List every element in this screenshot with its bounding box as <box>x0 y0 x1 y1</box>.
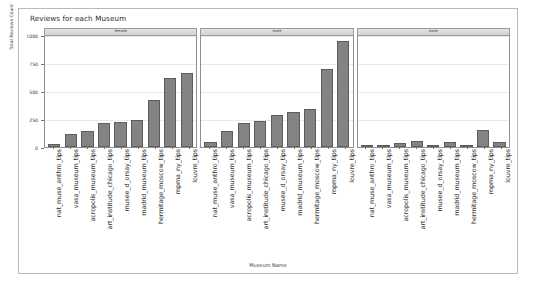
chart-title: Reviews for each Museum <box>30 14 126 23</box>
x-axis-tick-label: mpma_ny_tips <box>330 149 338 194</box>
x-axis-tick-mark <box>501 146 502 149</box>
facet-strip-label: female <box>114 30 126 34</box>
bar <box>164 78 176 147</box>
bar-group <box>201 36 352 147</box>
facet-strip-female: female <box>44 28 197 36</box>
y-axis-tick-label: 750 <box>29 62 38 67</box>
x-axis-tick-mark <box>311 146 312 149</box>
bar <box>148 100 160 147</box>
chart-screenshot: Reviews for each Museum Total Reviews Co… <box>0 0 536 282</box>
bar <box>204 142 216 147</box>
x-axis-tick-mark <box>155 146 156 149</box>
x-axis-tick-label: acropolis_museum_tips <box>89 149 97 221</box>
plot-panel <box>200 36 353 148</box>
x-axis-tick-label: nat_muse_anthro_tips <box>368 149 376 217</box>
x-axis-labels-male: nat_muse_anthro_tipsvasa_museum_tipsacro… <box>200 149 353 249</box>
x-axis-tick-mark <box>172 146 173 149</box>
x-axis-tick-mark <box>104 146 105 149</box>
x-axis-tick-label: vasa_museum_tips <box>385 149 393 208</box>
bar-group <box>358 36 509 147</box>
x-axis-tick-mark <box>382 146 383 149</box>
x-axis-tick-mark <box>260 146 261 149</box>
plot-area: femalemalenone <box>44 28 510 148</box>
x-axis-tick-label: hermitage_moscow_tips <box>470 149 478 224</box>
x-axis-tick-label: vasa_museum_tips <box>228 149 236 208</box>
bar <box>238 123 250 147</box>
x-axis-tick-mark <box>484 146 485 149</box>
x-axis-labels-female: nat_muse_anthro_tipsvasa_museum_tipsacro… <box>44 149 197 249</box>
x-axis-tick-mark <box>416 146 417 149</box>
x-axis-tick-label: vasa_museum_tips <box>72 149 80 208</box>
x-axis-tick-label: art_institude_chicago_tips <box>262 149 270 229</box>
facet-panel-female: female <box>44 28 197 148</box>
x-axis-tick-label: nat_muse_anthro_tips <box>55 149 63 217</box>
facet-panel-male: male <box>200 28 353 148</box>
x-axis-tick-mark <box>209 146 210 149</box>
bar <box>254 121 266 147</box>
x-axis-tick-label: madrid_museum_tips <box>453 149 461 216</box>
bar <box>321 69 333 147</box>
x-axis-tick-mark <box>345 146 346 149</box>
bar <box>337 41 349 147</box>
x-axis-tick-label: mpma_ny_tips <box>487 149 495 194</box>
bar-group <box>45 36 196 147</box>
x-axis-tick-label: louvre_tips <box>191 149 199 183</box>
x-axis-tick-mark <box>121 146 122 149</box>
x-axis-title: Museum Name <box>0 262 536 268</box>
x-axis-tick-mark <box>277 146 278 149</box>
facet-panel-none: none <box>357 28 510 148</box>
x-axis-tick-mark <box>328 146 329 149</box>
bar <box>48 144 60 147</box>
x-axis-tick-label: art_institude_chicago_tips <box>106 149 114 229</box>
x-axis-tick-mark <box>450 146 451 149</box>
bar <box>477 130 489 147</box>
x-axis-tick-label: nat_muse_anthro_tips <box>211 149 219 217</box>
x-axis-tick-label: acropolis_museum_tips <box>402 149 410 221</box>
x-axis-tick-label: louvre_tips <box>504 149 512 183</box>
bar <box>271 115 283 147</box>
x-axis-tick-label: musee_d_orsay_tips <box>123 149 131 212</box>
bar <box>114 122 126 147</box>
plot-panel <box>357 36 510 148</box>
bar <box>181 73 193 147</box>
facet-strip-label: male <box>273 30 282 34</box>
y-axis-tick-label: 0 <box>35 146 38 151</box>
x-axis-tick-mark <box>87 146 88 149</box>
x-axis-tick-mark <box>433 146 434 149</box>
bar <box>131 120 143 147</box>
x-axis-tick-label: hermitage_moscow_tips <box>157 149 165 224</box>
y-axis: 02505007501000 <box>0 36 44 148</box>
y-axis-tick-label: 250 <box>29 118 38 123</box>
x-axis-tick-mark <box>467 146 468 149</box>
x-axis-tick-mark <box>138 146 139 149</box>
x-axis-tick-mark <box>243 146 244 149</box>
x-axis-tick-label: mpma_ny_tips <box>174 149 182 194</box>
x-axis-tick-mark <box>53 146 54 149</box>
bar <box>98 123 110 147</box>
bar <box>377 145 389 147</box>
x-axis-tick-mark <box>294 146 295 149</box>
x-axis-tick-label: art_institude_chicago_tips <box>419 149 427 229</box>
x-axis-tick-label: madrid_museum_tips <box>296 149 304 216</box>
x-axis-tick-label: madrid_museum_tips <box>140 149 148 216</box>
bar <box>65 134 77 147</box>
x-axis-tick-mark <box>365 146 366 149</box>
y-axis-tick-label: 1000 <box>26 34 38 39</box>
x-axis-tick-label: louvre_tips <box>348 149 356 183</box>
bar <box>304 109 316 147</box>
bar <box>221 131 233 147</box>
x-axis-tick-mark <box>226 146 227 149</box>
y-axis-tick-label: 500 <box>29 90 38 95</box>
bar <box>361 145 373 147</box>
x-axis-tick-mark <box>70 146 71 149</box>
x-axis-tick-label: musee_d_orsay_tips <box>279 149 287 212</box>
x-axis-tick-label: acropolis_museum_tips <box>245 149 253 221</box>
x-axis-labels-none: nat_muse_anthro_tipsvasa_museum_tipsacro… <box>357 149 510 249</box>
x-axis-tick-label: musee_d_orsay_tips <box>436 149 444 212</box>
facet-strip-none: none <box>357 28 510 36</box>
x-axis-tick-mark <box>189 146 190 149</box>
x-axis-tick-label: hermitage_moscow_tips <box>313 149 321 224</box>
x-axis-tick-mark <box>399 146 400 149</box>
plot-panel <box>44 36 197 148</box>
facet-strip-label: none <box>429 30 438 34</box>
